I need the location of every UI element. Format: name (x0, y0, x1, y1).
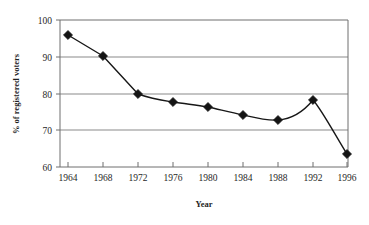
x-axis-label-1996: 1996 (338, 173, 357, 183)
chart-figure: 100 90 80 70 60 1964 1968 1972 1976 1980… (0, 0, 369, 225)
y-axis-label-70: 70 (43, 126, 53, 136)
y-axis-label-60: 60 (43, 163, 53, 173)
y-axis-tickmarks (56, 20, 60, 167)
x-axis-label-1972: 1972 (129, 173, 148, 183)
x-axis-labels: 1964 1968 1972 1976 1980 1984 1988 1992 … (59, 173, 357, 183)
y-axis-label-80: 80 (43, 90, 53, 100)
y-axis-label-100: 100 (38, 16, 53, 26)
x-axis-label-1980: 1980 (199, 173, 218, 183)
y-axis-labels: 100 90 80 70 60 (38, 16, 53, 173)
x-axis-label-1992: 1992 (304, 173, 323, 183)
y-axis-label-90: 90 (43, 53, 53, 63)
x-axis-title: Year (196, 199, 213, 209)
line-chart-canvas: 100 90 80 70 60 1964 1968 1972 1976 1980… (0, 0, 369, 225)
y-axis-title: % of registered voters (11, 53, 21, 134)
x-axis-label-1976: 1976 (164, 173, 183, 183)
x-axis-label-1984: 1984 (234, 173, 253, 183)
x-axis-label-1988: 1988 (269, 173, 288, 183)
x-axis-label-1968: 1968 (94, 173, 113, 183)
x-axis-label-1964: 1964 (59, 173, 78, 183)
